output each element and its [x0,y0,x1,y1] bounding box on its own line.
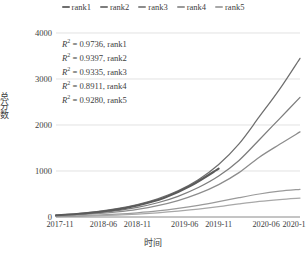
y-axis-title: 总分数 [0,92,11,119]
curve-rank3 [56,132,300,216]
r-squared-value-text: = 0.9280, rank5 [70,95,127,105]
y-axis-tick-labels: 40003000200010000 [18,0,52,254]
r-squared-annotation-4: R2 = 0.8911, rank4 [62,80,127,92]
r-squared-annotation-3: R2 = 0.9335, rank3 [62,66,127,78]
x-axis-title: 时间 [0,236,306,249]
r-squared-annotation-1: R2 = 0.9736, rank1 [62,38,127,50]
x-axis-tick-2019-06: 2019-06 [171,221,198,229]
legend-item-rank5[interactable]: rank5 [215,2,244,12]
r-squared-annotation-5: R2 = 0.9280, rank5 [62,94,127,106]
r-squared-annotations: R2 = 0.9736, rank1R2 = 0.9397, rank2R2 =… [62,38,127,106]
x-axis-tick-labels: 2017-112018-062018-112019-062019-112020-… [0,221,306,233]
legend-item-label: rank2 [110,2,129,12]
legend-item-rank2[interactable]: rank2 [100,2,129,12]
y-axis-tick-4000: 4000 [20,29,52,38]
r-squared-value-text: = 0.9335, rank3 [70,67,127,77]
y-axis-tick-3000: 3000 [20,75,52,84]
x-axis-tick-2018-11: 2018-11 [124,221,151,229]
legend-item-label: rank4 [187,2,206,12]
legend-swatch-icon [62,6,70,8]
x-axis-tick-2018-06: 2018-06 [90,221,117,229]
legend-item-rank1[interactable]: rank1 [62,2,91,12]
r-squared-value-text: = 0.8911, rank4 [70,81,126,91]
y-axis-tick-2000: 2000 [20,121,52,130]
r-squared-value-text: = 0.9736, rank1 [70,39,127,49]
legend-swatch-icon [177,6,185,8]
legend-item-rank3[interactable]: rank3 [138,2,167,12]
curve-rank1-fit-segment [56,169,219,216]
x-axis-tick-2017-11: 2017-11 [47,221,74,229]
legend-swatch-icon [138,6,146,8]
curve-rank2 [56,97,300,215]
r-squared-value-text: = 0.9397, rank2 [70,53,127,63]
legend-item-label: rank1 [72,2,91,12]
legend-item-label: rank3 [148,2,167,12]
legend-item-rank4[interactable]: rank4 [177,2,206,12]
legend-item-label: rank5 [225,2,244,12]
r-squared-annotation-2: R2 = 0.9397, rank2 [62,52,127,64]
legend-swatch-icon [100,6,108,8]
chart-figure: rank1rank2rank3rank4rank5 40003000200010… [0,0,306,254]
x-axis-tick-2019-11: 2019-11 [205,221,232,229]
x-axis-tick-2020-06: 2020-06 [252,221,279,229]
y-axis-tick-1000: 1000 [20,167,52,176]
x-axis-tick-2020-11: 2020-11 [283,221,307,229]
legend-swatch-icon [215,6,223,8]
